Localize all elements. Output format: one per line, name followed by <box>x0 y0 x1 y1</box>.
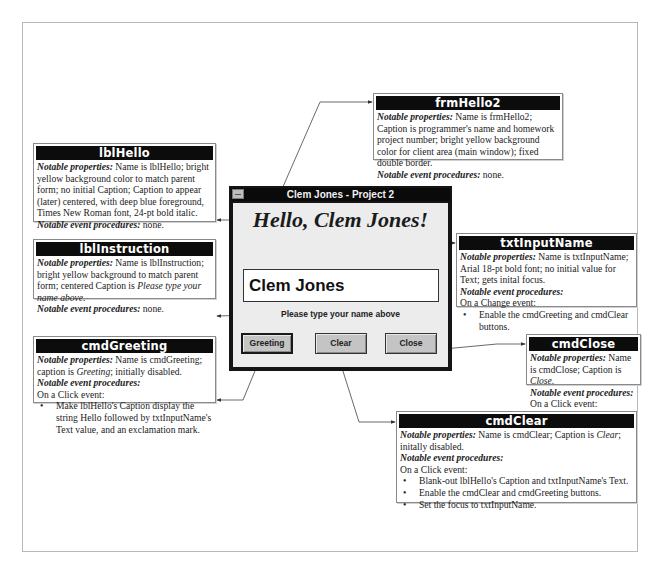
callout-events-label: Notable event procedures: <box>37 377 212 389</box>
greeting-button[interactable]: Greeting <box>241 333 293 354</box>
callout-lblhello: lblHello Notable properties: Name is lbl… <box>33 143 216 222</box>
callout-title: frmHello2 <box>376 96 560 110</box>
callout-properties: Notable properties: Name is txtInputName… <box>460 251 633 286</box>
callout-bullet: Blank-out lblHello's Caption and txtInpu… <box>400 475 633 487</box>
callout-lblinstruction: lblInstruction Notable properties: Name … <box>33 239 216 299</box>
form-title-bar[interactable]: Clem Jones - Project 2 <box>231 188 450 201</box>
form-title: Clem Jones - Project 2 <box>287 189 394 200</box>
form-window: Clem Jones - Project 2 Hello, Clem Jones… <box>229 186 452 371</box>
callout-properties: Notable properties: Name is lblInstructi… <box>37 257 212 303</box>
callout-cmdclear: cmdClear Notable properties: Name is cmd… <box>396 411 637 503</box>
system-menu-icon[interactable] <box>232 189 244 199</box>
callout-properties: Notable properties: Name is cmdGreeting;… <box>37 354 212 377</box>
callout-properties: Notable properties: Name is frmHello2; C… <box>377 111 559 169</box>
callout-title: cmdClear <box>399 414 634 428</box>
callout-cmdclose: cmdClose Notable properties: Name is cmd… <box>526 334 641 385</box>
callout-title: cmdGreeting <box>36 339 213 353</box>
callout-events: Notable event procedures: none. <box>377 169 559 181</box>
form-client-area: Hello, Clem Jones! Clem Jones Please typ… <box>233 203 448 367</box>
callout-bullets: Make lblHello's Caption display the stri… <box>37 400 212 435</box>
callout-txtinputname: txtInputName Notable properties: Name is… <box>456 233 637 307</box>
callout-title: txtInputName <box>459 236 634 250</box>
callout-properties: Notable properties: Name is cmdClose; Ca… <box>530 352 637 387</box>
callout-bullet: Make lblHello's Caption display the stri… <box>37 400 212 435</box>
callout-event-trigger: On a Click event: <box>37 389 212 401</box>
close-button[interactable]: Close <box>385 333 437 354</box>
instruction-label: Please type your name above <box>233 309 448 319</box>
callout-properties: Notable properties: Name is cmdClear; Ca… <box>400 429 633 452</box>
callout-title: lblHello <box>36 146 213 160</box>
callout-title: lblInstruction <box>36 242 213 256</box>
name-input[interactable]: Clem Jones <box>243 269 439 302</box>
callout-bullets: Blank-out lblHello's Caption and txtInpu… <box>400 475 633 510</box>
callout-bullet: Set the focus to txtInputName. <box>400 499 633 511</box>
hello-label: Hello, Clem Jones! <box>233 207 448 233</box>
callout-events-label: Notable event procedures: <box>460 286 633 298</box>
callout-cmdgreeting: cmdGreeting Notable properties: Name is … <box>33 336 216 403</box>
callout-title: cmdClose <box>529 337 638 351</box>
callout-frmhello2: frmHello2 Notable properties: Name is fr… <box>373 93 563 160</box>
callout-bullet: Enable the cmdGreeting and cmdClear butt… <box>460 309 633 332</box>
callout-events: Notable event procedures: none. <box>37 219 212 231</box>
callout-events-label: Notable event procedures: <box>530 387 637 399</box>
callout-properties: Notable properties: Name is lblHello; br… <box>37 161 212 219</box>
callout-events: Notable event procedures: none. <box>37 303 212 315</box>
callout-event-trigger: On a Change event: <box>460 297 633 309</box>
clear-button[interactable]: Clear <box>315 333 367 354</box>
callout-event-trigger: On a Click event: <box>400 464 633 476</box>
callout-events-label: Notable event procedures: <box>400 452 633 464</box>
callout-bullets: Enable the cmdGreeting and cmdClear butt… <box>460 309 633 332</box>
callout-event-trigger: On a Click event: <box>530 398 637 410</box>
callout-bullet: Enable the cmdClear and cmdGreeting butt… <box>400 487 633 499</box>
